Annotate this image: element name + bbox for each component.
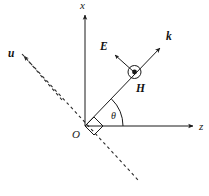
origin-label: O <box>72 128 80 140</box>
H-dot-icon <box>132 70 137 75</box>
u-vector-label: u <box>8 47 15 59</box>
z-axis-label: z <box>198 120 204 132</box>
physics-diagram-figure: x z O k E u H θ <box>0 0 209 196</box>
E-vector-line <box>115 55 134 72</box>
x-axis-label: x <box>79 0 85 11</box>
H-field-label: H <box>135 82 146 94</box>
k-vector-line <box>85 48 160 126</box>
E-vector-label: E <box>99 40 108 52</box>
u-vector-arrow <box>24 56 62 100</box>
k-vector-label: k <box>166 30 172 42</box>
diagram-canvas: x z O k E u H θ <box>0 0 209 196</box>
theta-angle-label: θ <box>111 110 116 121</box>
u-axis-dashed-line <box>22 54 139 181</box>
